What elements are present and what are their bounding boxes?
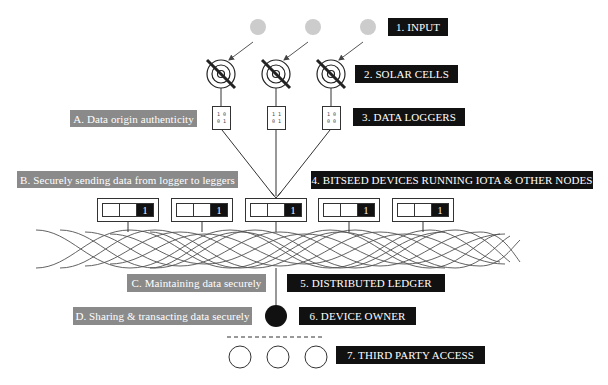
logger-bits-row-1: 1 0 <box>217 111 226 118</box>
layer-label-input: 1. INPUT <box>388 18 448 36</box>
device-owner-icon <box>265 305 287 327</box>
step-label-maintaining: C. Maintaining data securely <box>127 274 266 292</box>
device-value: 1 <box>285 204 301 216</box>
third-party-circle-icon <box>305 346 327 368</box>
sun-input-circle-icon <box>360 19 376 35</box>
logger-bits-row-1: 1 1 <box>272 111 281 118</box>
device-value: 1 <box>137 204 153 216</box>
layer-label-solar-cells: 2. SOLAR CELLS <box>355 65 458 83</box>
bitseed-device: 1 <box>318 198 380 222</box>
device-value: 1 <box>358 204 374 216</box>
third-party-circle-icon <box>267 346 289 368</box>
logger-bits-row-1: 1 0 <box>327 111 336 118</box>
bitseed-device: 1 <box>392 198 454 222</box>
layer-label-data-loggers: 3. DATA LOGGERS <box>353 108 465 126</box>
input-arrows <box>229 42 363 60</box>
device-value: 1 <box>211 204 227 216</box>
logger-bits-row-2: 0 1 <box>272 118 281 125</box>
bitseed-device: 1 <box>171 198 233 222</box>
step-label-data-origin: A. Data origin authenticity <box>70 110 197 127</box>
solar-cell-icon <box>207 60 235 88</box>
third-party-circle-icon <box>229 346 251 368</box>
logger-bits-row-2: 0 1 <box>217 118 226 125</box>
solar-cell-icon <box>262 60 290 88</box>
data-logger: 1 1 0 1 <box>267 106 286 130</box>
layer-label-third-party-access: 7. THIRD PARTY ACCESS <box>336 346 485 364</box>
third-party-circles <box>229 346 327 368</box>
solar-logger-connectors <box>221 88 331 106</box>
sun-input-circle-icon <box>250 19 266 35</box>
distributed-ledger-weave <box>36 230 520 268</box>
solar-cell-icon <box>317 60 345 88</box>
bitseed-device: 1 <box>97 198 159 222</box>
diagram-graphics <box>0 0 608 385</box>
data-logger: 1 0 0 0 <box>322 106 341 130</box>
layer-label-device-owner: 6. DEVICE OWNER <box>299 307 416 325</box>
logger-bits-row-2: 0 0 <box>327 118 336 125</box>
bitseed-device: 1 <box>245 198 307 222</box>
data-logger: 1 0 0 1 <box>212 106 231 130</box>
step-label-secure-sending: B. Securely sending data from logger to … <box>17 171 238 188</box>
device-stems <box>128 222 423 232</box>
sun-input-circle-icon <box>305 19 321 35</box>
input-circles <box>250 19 376 35</box>
step-label-sharing: D. Sharing & transacting data securely <box>73 307 252 325</box>
layer-label-distributed-ledger: 5. DISTRIBUTED LEDGER <box>287 274 445 292</box>
layer-label-bitseed-devices: 4. BITSEED DEVICES RUNNING IOTA & OTHER … <box>311 171 593 189</box>
device-value: 1 <box>432 204 448 216</box>
